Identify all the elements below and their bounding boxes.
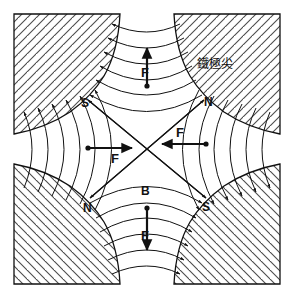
- pole-label-bottom-right: S: [202, 200, 210, 214]
- force-label-top: F: [141, 65, 149, 80]
- pole-label-bottom-left: N: [83, 201, 92, 215]
- pole-piece-bottom-right: [174, 164, 280, 284]
- force-vector-bottom: F: [141, 205, 150, 250]
- pole-tip-caption: 鐵極尖: [197, 56, 233, 71]
- pole-piece-top-left: [14, 14, 120, 134]
- force-label-right: F: [176, 125, 184, 140]
- field-diagram-svg: F F F F S N N S B 鐵極尖: [0, 0, 294, 298]
- force-vector-top: F: [141, 48, 150, 89]
- force-label-bottom: F: [141, 228, 149, 243]
- force-label-left: F: [111, 151, 119, 166]
- pole-label-top-right: N: [204, 95, 213, 109]
- field-label-b: B: [141, 184, 150, 198]
- pole-piece-bottom-left: [14, 164, 120, 284]
- force-vector-left: F: [85, 145, 132, 166]
- pole-piece-top-right: [174, 14, 280, 134]
- pole-label-top-left: S: [81, 96, 89, 110]
- diagram-canvas: F F F F S N N S B 鐵極尖: [0, 0, 294, 298]
